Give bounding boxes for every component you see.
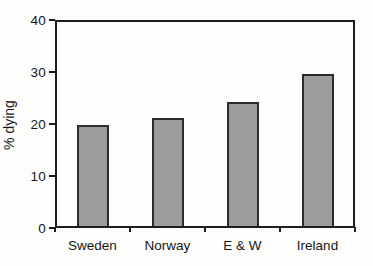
x-tick-mark: [354, 227, 356, 232]
bar-ireland: [302, 74, 334, 226]
y-tick-label-10: 10: [12, 170, 46, 184]
bar-e-w: [227, 102, 259, 226]
x-tick-mark: [129, 227, 131, 232]
x-category-label-norway: Norway: [128, 238, 208, 253]
x-category-label-sweden: Sweden: [53, 238, 133, 253]
y-tick-mark: [49, 19, 55, 21]
x-category-label-ireland: Ireland: [278, 238, 358, 253]
y-tick-mark: [49, 175, 55, 177]
y-tick-mark: [49, 123, 55, 125]
x-tick-mark: [279, 227, 281, 232]
x-tick-mark: [204, 227, 206, 232]
bar-norway: [152, 118, 184, 226]
y-tick-label-0: 0: [12, 222, 46, 236]
y-tick-label-40: 40: [12, 14, 46, 28]
y-tick-label-20: 20: [12, 118, 46, 132]
x-category-label-e-w: E & W: [203, 238, 283, 253]
bar-sweden: [77, 125, 109, 226]
y-tick-label-30: 30: [12, 66, 46, 80]
plot-area: [55, 20, 355, 228]
y-tick-mark: [49, 71, 55, 73]
x-tick-mark: [54, 227, 56, 232]
bar-chart-figure: % dying 010203040 SwedenNorwayE & WIrela…: [0, 0, 373, 266]
